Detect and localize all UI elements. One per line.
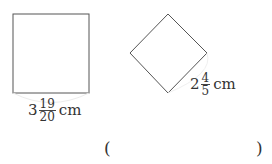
square-fraction: 19 20 (39, 98, 56, 123)
rhombus-denominator: 5 (201, 85, 211, 97)
square-unit: cm (59, 103, 82, 118)
rhombus-whole: 2 (190, 77, 200, 92)
square-side-label: 3 19 20 cm (28, 98, 81, 123)
answer-blank[interactable] (114, 140, 254, 158)
answer-open-paren: ( (104, 138, 111, 158)
answer-close-paren: ) (256, 138, 263, 158)
rhombus-numerator: 4 (201, 72, 211, 84)
square-shape (13, 14, 89, 93)
rhombus-side-label: 2 4 5 cm (190, 72, 236, 97)
square-numerator: 19 (39, 98, 56, 110)
square-whole: 3 (28, 103, 38, 118)
rhombus-unit: cm (213, 77, 236, 92)
rhombus-fraction: 4 5 (201, 72, 211, 97)
square-denominator: 20 (39, 111, 56, 123)
